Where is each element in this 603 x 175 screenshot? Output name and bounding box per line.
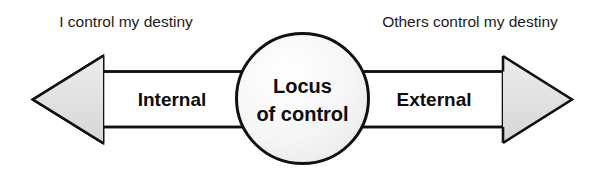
locus-of-control-diagram: I control my destiny Others control my d… [0, 0, 603, 175]
diagram-canvas: I control my destiny Others control my d… [0, 0, 603, 175]
locus-label-line1: Locus [273, 75, 332, 97]
external-band-label: External [397, 89, 472, 110]
right-caption: Others control my destiny [382, 13, 558, 30]
left-arrowhead-fill [33, 56, 103, 143]
internal-band-label: Internal [138, 89, 207, 110]
locus-of-control-ellipse [237, 34, 369, 164]
locus-label-line2: of control [256, 103, 348, 125]
right-arrowhead-fill [503, 56, 572, 143]
left-caption: I control my destiny [59, 13, 193, 30]
